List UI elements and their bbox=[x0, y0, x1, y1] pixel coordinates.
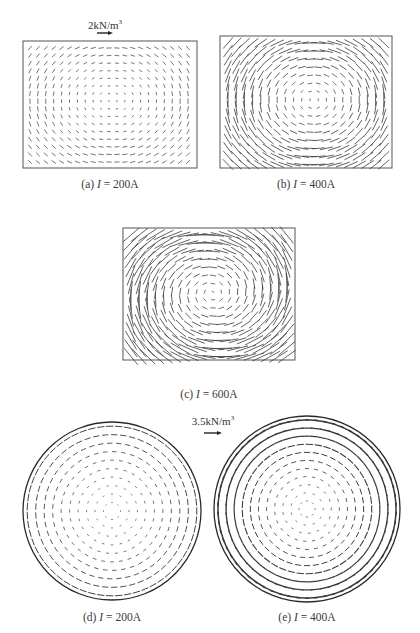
force-vector bbox=[44, 46, 47, 49]
force-vector bbox=[155, 350, 172, 362]
force-vector bbox=[314, 59, 323, 60]
vector-field-canvas bbox=[0, 0, 420, 633]
force-vector bbox=[232, 540, 236, 549]
force-vector bbox=[123, 48, 127, 49]
force-vector bbox=[143, 450, 147, 452]
force-vector bbox=[36, 495, 37, 500]
force-vector bbox=[179, 145, 182, 148]
force-vector bbox=[243, 544, 247, 551]
force-vector bbox=[178, 312, 183, 319]
force-vector bbox=[348, 555, 353, 559]
force-vector bbox=[284, 81, 287, 85]
force-vector bbox=[251, 78, 255, 89]
force-vector bbox=[329, 431, 338, 434]
force-vector bbox=[296, 521, 297, 522]
force-vector bbox=[146, 576, 151, 579]
force-vector bbox=[373, 118, 379, 130]
force-vector bbox=[377, 487, 379, 495]
force-vector bbox=[227, 273, 232, 277]
force-vector bbox=[187, 61, 189, 65]
force-vector bbox=[257, 63, 264, 71]
force-vector bbox=[235, 305, 240, 310]
force-vector bbox=[174, 466, 177, 471]
force-vector bbox=[236, 527, 238, 535]
force-vector bbox=[29, 61, 31, 65]
force-vector bbox=[186, 490, 187, 495]
force-vector bbox=[356, 64, 362, 71]
force-vector bbox=[84, 131, 86, 133]
force-vector bbox=[300, 83, 304, 85]
force-vector bbox=[155, 70, 157, 72]
force-vector bbox=[191, 481, 193, 487]
force-vector bbox=[348, 64, 354, 70]
force-vector bbox=[123, 162, 127, 163]
force-vector bbox=[349, 73, 354, 79]
force-vector bbox=[38, 531, 40, 536]
force-vector bbox=[131, 139, 134, 140]
force-vector bbox=[139, 562, 142, 564]
force-vector bbox=[121, 452, 125, 453]
force-vector bbox=[187, 130, 189, 134]
force-vector bbox=[265, 56, 274, 63]
force-vector bbox=[163, 62, 166, 65]
force-vector bbox=[97, 502, 98, 503]
force-vector bbox=[120, 544, 122, 545]
force-vector bbox=[292, 555, 296, 556]
force-vector bbox=[164, 467, 167, 471]
force-vector bbox=[140, 108, 141, 110]
force-vector bbox=[361, 448, 368, 455]
force-vector bbox=[355, 55, 364, 63]
force-vector bbox=[299, 131, 306, 133]
force-vector bbox=[327, 551, 331, 553]
force-vector bbox=[252, 524, 254, 529]
force-vector bbox=[124, 236, 139, 251]
force-vector bbox=[274, 533, 276, 536]
force-vector bbox=[194, 274, 199, 277]
force-vector bbox=[164, 84, 165, 87]
force-vector bbox=[64, 492, 65, 495]
force-vector bbox=[203, 307, 207, 309]
force-vector bbox=[316, 124, 321, 125]
force-vector bbox=[172, 92, 173, 96]
force-vector bbox=[287, 454, 292, 456]
force-vector bbox=[293, 106, 295, 109]
force-vector bbox=[124, 85, 126, 86]
force-vector bbox=[265, 456, 270, 460]
force-vector bbox=[168, 264, 176, 272]
force-vector bbox=[77, 535, 78, 537]
force-vector bbox=[37, 137, 40, 141]
force-vector bbox=[188, 107, 189, 111]
force-vector bbox=[60, 54, 63, 57]
caption-panel-e: (e) I = 400A bbox=[278, 611, 335, 623]
force-vector bbox=[60, 145, 64, 148]
force-vector bbox=[346, 575, 354, 580]
force-vector bbox=[73, 527, 74, 529]
force-vector bbox=[243, 305, 248, 312]
force-vector bbox=[272, 553, 276, 556]
force-vector bbox=[258, 71, 263, 80]
force-vector bbox=[377, 523, 379, 531]
force-vector bbox=[98, 470, 100, 471]
force-vector bbox=[312, 514, 313, 515]
force-vector bbox=[183, 551, 186, 557]
force-vector bbox=[313, 523, 314, 524]
force-vector bbox=[274, 65, 280, 70]
force-vector bbox=[45, 522, 46, 527]
force-vector bbox=[139, 138, 142, 140]
force-vector bbox=[292, 528, 294, 529]
force-vector bbox=[218, 266, 225, 269]
force-vector bbox=[245, 484, 247, 490]
force-vector bbox=[55, 471, 58, 475]
force-vector bbox=[364, 548, 369, 555]
force-vector bbox=[281, 540, 284, 542]
force-vector bbox=[317, 91, 319, 92]
force-vector bbox=[329, 517, 330, 519]
force-vector bbox=[325, 90, 327, 93]
force-vector bbox=[217, 324, 226, 325]
force-vector bbox=[62, 568, 66, 572]
force-vector bbox=[131, 229, 147, 242]
force-vector bbox=[89, 428, 95, 430]
force-vector bbox=[77, 108, 78, 110]
force-vector bbox=[351, 525, 353, 529]
force-vector bbox=[195, 306, 199, 310]
